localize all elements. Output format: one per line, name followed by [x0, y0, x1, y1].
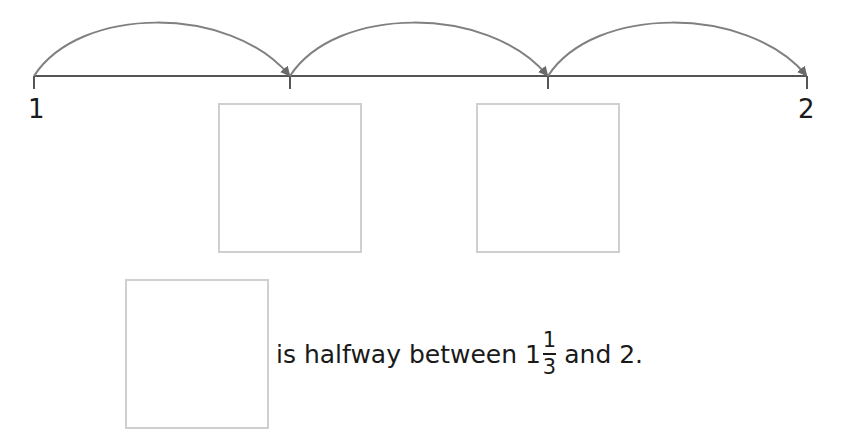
fraction-denominator: 3: [543, 357, 556, 378]
start-label: 1: [28, 96, 45, 122]
answer-box-1[interactable]: [218, 103, 362, 253]
answer-box-2[interactable]: [476, 103, 620, 253]
sentence-suffix: and 2.: [564, 340, 643, 369]
jump-arrow-3: [548, 23, 806, 76]
sentence-prefix: is halfway between: [276, 340, 525, 369]
fraction: 1 3: [543, 330, 556, 378]
jump-arrow-1: [34, 23, 289, 76]
end-label: 2: [798, 96, 815, 122]
fraction-numerator: 1: [543, 330, 556, 351]
question-sentence: is halfway between 1 1 3 and 2.: [276, 330, 643, 378]
mixed-number-whole: 1: [525, 340, 541, 369]
answer-box-3[interactable]: [125, 279, 269, 429]
jump-arrow-2: [290, 23, 547, 76]
